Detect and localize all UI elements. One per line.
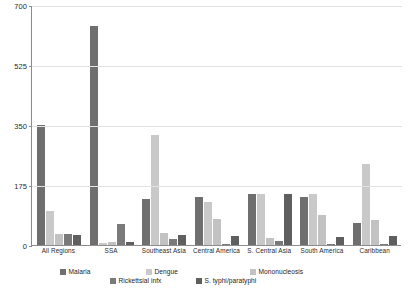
legend-swatch-icon — [196, 278, 202, 284]
bar[interactable] — [169, 239, 177, 245]
legend-item[interactable]: Rickettsial infx — [110, 277, 196, 284]
legend-item[interactable]: Mononucleosis — [250, 268, 350, 275]
y-tickmark — [29, 6, 32, 7]
bar[interactable] — [371, 220, 379, 245]
bar[interactable] — [309, 194, 317, 245]
bar[interactable] — [257, 194, 265, 245]
x-tick-label: SSA — [85, 247, 138, 254]
legend-swatch-icon — [250, 269, 256, 275]
bar[interactable] — [99, 243, 107, 245]
bar[interactable] — [231, 236, 239, 245]
legend-swatch-icon — [110, 278, 116, 284]
x-tick-label: Caribbean — [348, 247, 401, 254]
bar[interactable] — [178, 235, 186, 245]
bar[interactable] — [380, 244, 388, 245]
legend-label: S. typhi/paratyphi — [205, 277, 257, 284]
legend-label: Malaria — [69, 268, 91, 275]
bar[interactable] — [126, 242, 134, 245]
bar[interactable] — [108, 242, 116, 245]
bar[interactable] — [160, 233, 168, 245]
bar[interactable] — [46, 211, 54, 245]
x-tick-label: South America — [296, 247, 349, 254]
x-tick-label: Southeast Asia — [137, 247, 190, 254]
gridline — [32, 6, 402, 7]
bar[interactable] — [353, 223, 361, 245]
x-tick-label: All Regions — [32, 247, 85, 254]
y-tick-label: 700 — [14, 2, 27, 11]
bar[interactable] — [284, 194, 292, 245]
y-tickmark — [29, 66, 32, 67]
bar[interactable] — [204, 202, 212, 245]
legend-row: Rickettsial infxS. typhi/paratyphi — [110, 277, 300, 284]
bar[interactable] — [90, 26, 98, 245]
chart-legend: MalariaDengueMononucleosisRickettsial in… — [0, 268, 409, 284]
bar[interactable] — [266, 238, 274, 245]
y-axis: 0175350525700 — [0, 0, 30, 252]
bar[interactable] — [275, 241, 283, 245]
y-tick-label: 525 — [14, 62, 27, 71]
bar[interactable] — [151, 135, 159, 245]
legend-row: MalariaDengueMononucleosis — [60, 268, 350, 275]
plot-wrapper: 0175350525700 All RegionsSSASoutheast As… — [0, 0, 409, 252]
bar[interactable] — [362, 164, 370, 245]
legend-item[interactable]: Malaria — [60, 268, 146, 275]
legend-label: Dengue — [155, 268, 178, 275]
x-axis: All RegionsSSASoutheast AsiaCentral Amer… — [32, 247, 401, 254]
legend-swatch-icon — [60, 269, 66, 275]
y-tick-label: 0 — [23, 242, 27, 251]
bar[interactable] — [318, 215, 326, 245]
bar[interactable] — [222, 244, 230, 245]
gridline — [32, 126, 402, 127]
gridline — [32, 66, 402, 67]
y-tick-label: 350 — [14, 122, 27, 131]
x-tick-label: Central America — [190, 247, 243, 254]
legend-label: Rickettsial infx — [119, 277, 162, 284]
legend-item[interactable]: Dengue — [146, 268, 250, 275]
y-tickmark — [29, 186, 32, 187]
bar[interactable] — [73, 235, 81, 245]
bar[interactable] — [142, 199, 150, 245]
bar-chart: 0175350525700 All RegionsSSASoutheast As… — [0, 0, 409, 295]
bar[interactable] — [248, 194, 256, 245]
bar[interactable] — [336, 237, 344, 245]
legend-label: Mononucleosis — [259, 268, 304, 275]
bar[interactable] — [389, 236, 397, 245]
bar[interactable] — [213, 219, 221, 245]
gridline — [32, 186, 402, 187]
plot-area — [31, 6, 401, 246]
bar[interactable] — [64, 234, 72, 245]
bar[interactable] — [327, 244, 335, 245]
bar[interactable] — [195, 197, 203, 245]
legend-swatch-icon — [146, 269, 152, 275]
legend-item[interactable]: S. typhi/paratyphi — [196, 277, 300, 284]
bar[interactable] — [37, 125, 45, 245]
bar[interactable] — [55, 234, 63, 245]
bar[interactable] — [300, 197, 308, 245]
bar[interactable] — [117, 224, 125, 245]
x-tick-label: S. Central Asia — [243, 247, 296, 254]
y-tick-label: 175 — [14, 182, 27, 191]
y-tickmark — [29, 126, 32, 127]
